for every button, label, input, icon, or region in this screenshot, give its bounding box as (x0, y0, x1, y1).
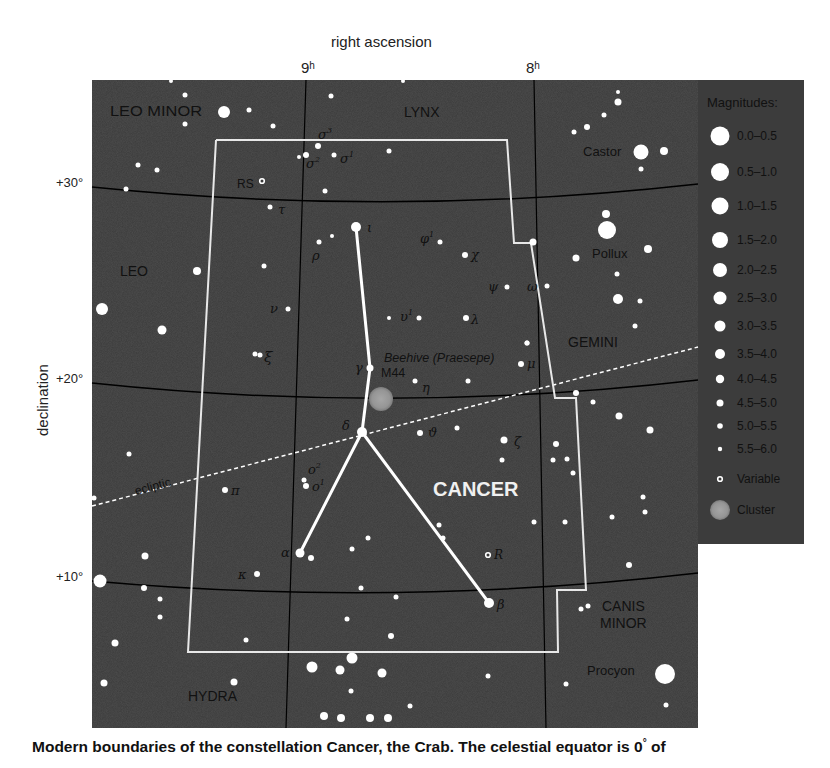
label-cancer: CANCER (433, 478, 519, 500)
label-hydra: HYDRA (188, 688, 238, 704)
svg-text:0.0–0.5: 0.0–0.5 (737, 129, 777, 143)
label-iota: ι (367, 220, 372, 235)
m44-cluster (369, 387, 393, 411)
label-castor: Castor (583, 144, 622, 159)
label-m44: M44 (381, 366, 405, 380)
label-canis: CANIS (602, 598, 645, 614)
label-minor: MINOR (600, 615, 647, 631)
ra-axis-title: right ascension (331, 33, 432, 50)
label-chi: χ (470, 247, 480, 262)
label-alpha: α (281, 545, 290, 560)
label-gamma: γ (355, 360, 363, 375)
label-beta: β (496, 597, 505, 612)
label-procyon: Procyon (587, 663, 635, 678)
svg-text:1.5–2.0: 1.5–2.0 (737, 233, 777, 247)
label-theta: ϑ (428, 425, 437, 440)
variable-star-r (486, 553, 491, 558)
svg-text:3.5–4.0: 3.5–4.0 (737, 347, 777, 361)
label-pi: π (230, 483, 240, 498)
ra-tick-9h: 9h (301, 59, 315, 76)
label-delta: δ (342, 418, 350, 433)
svg-text:3.0–3.5: 3.0–3.5 (737, 319, 777, 333)
label-leo-minor: LEO MINOR (110, 103, 202, 119)
variable-star-rs (260, 179, 265, 184)
label-lynx: LYNX (404, 104, 440, 120)
svg-text:2.5–3.0: 2.5–3.0 (737, 291, 777, 305)
svg-text:5.5–6.0: 5.5–6.0 (737, 442, 777, 456)
dec-tick-30: +30° (56, 175, 83, 190)
label-tau: τ (278, 202, 286, 217)
label-xi: ξ (264, 348, 273, 366)
label-rs: RS (237, 177, 254, 191)
label-beehive: Beehive (Praesepe) (384, 351, 494, 365)
svg-text:2.0–2.5: 2.0–2.5 (737, 263, 777, 277)
dec-axis-title: declination (34, 364, 51, 436)
dec-tick-10: +10° (56, 569, 83, 584)
label-nu: ν (270, 301, 278, 316)
label-gemini: GEMINI (568, 334, 618, 350)
legend-title: Magnitudes: (707, 95, 778, 110)
label-pollux: Pollux (592, 246, 628, 261)
star-chart: LEO MINOR LYNX LEO GEMINI CANIS MINOR HY… (0, 0, 830, 768)
label-kappa: κ (237, 567, 247, 582)
label-leo: LEO (120, 263, 148, 279)
dec-tick-20: +20° (56, 371, 83, 386)
svg-text:1.0–1.5: 1.0–1.5 (737, 199, 777, 213)
label-eta: η (422, 380, 430, 395)
ra-tick-8h: 8h (526, 59, 540, 76)
figure-caption: Modern boundaries of the constellation C… (32, 737, 666, 756)
svg-text:0.5–1.0: 0.5–1.0 (737, 165, 777, 179)
label-zeta: ζ (514, 434, 522, 449)
svg-text:Variable: Variable (737, 472, 780, 486)
label-psi: ψ (488, 279, 499, 294)
label-r: R (493, 548, 503, 562)
svg-text:5.0–5.5: 5.0–5.5 (737, 419, 777, 433)
svg-text:Cluster: Cluster (737, 503, 775, 517)
label-rho: ρ (311, 248, 320, 263)
label-lambda: λ (470, 312, 479, 327)
label-mu: μ (527, 356, 535, 371)
label-omega: ω (527, 279, 538, 294)
svg-text:4.5–5.0: 4.5–5.0 (737, 396, 777, 410)
svg-text:4.0–4.5: 4.0–4.5 (737, 372, 777, 386)
